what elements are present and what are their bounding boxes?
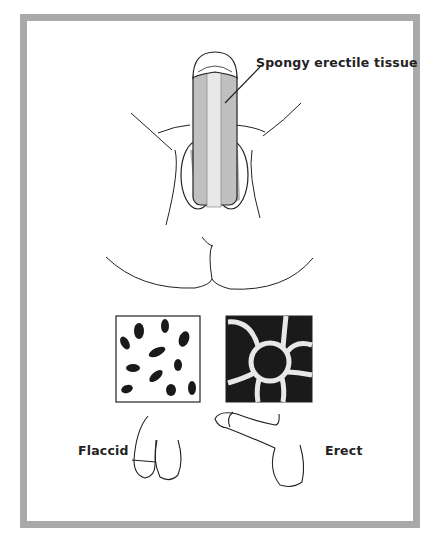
flaccid-label: Flaccid — [78, 443, 129, 458]
right-thigh-line — [263, 103, 301, 136]
erect-side-view — [215, 412, 304, 486]
left-thigh-line — [131, 113, 172, 150]
flaccid-tissue-panel — [116, 316, 200, 402]
erect-label: Erect — [325, 443, 363, 458]
flaccid-side-view — [132, 416, 181, 480]
penis-shaft — [193, 52, 237, 207]
buttocks-outline — [106, 257, 313, 289]
anatomy-illustration — [0, 0, 436, 541]
erect-tissue-panel — [226, 316, 312, 402]
callout-label-spongy-tissue: Spongy erectile tissue — [256, 55, 418, 70]
